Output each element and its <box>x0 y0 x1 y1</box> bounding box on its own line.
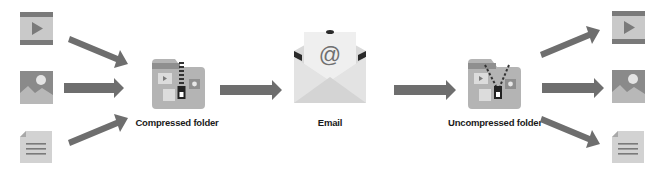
arrow-uncompressed-to-image <box>542 78 604 98</box>
document-file-icon <box>20 131 52 163</box>
video-file-icon <box>20 12 53 45</box>
email-envelope-icon: @ <box>294 27 366 103</box>
arrow-compressed-to-email <box>220 80 282 100</box>
image-file-icon <box>20 71 53 104</box>
svg-text:@: @ <box>319 42 341 67</box>
arrow-uncompressed-to-video <box>540 24 602 64</box>
image-file-icon <box>612 70 645 103</box>
arrow-document-to-compressed <box>68 112 130 152</box>
arrow-video-to-compressed <box>68 30 130 70</box>
compressed-folder-label: Compressed folder <box>132 117 222 128</box>
arrow-uncompressed-to-document <box>540 110 602 150</box>
document-file-icon <box>612 131 644 163</box>
zipped-folder-icon <box>149 59 205 109</box>
arrow-image-to-compressed <box>64 78 126 98</box>
unzipped-folder-icon <box>465 59 521 109</box>
arrow-email-to-uncompressed <box>394 80 456 100</box>
email-label: Email <box>305 117 355 128</box>
video-file-icon <box>612 11 645 44</box>
uncompressed-folder-label: Uncompressed folder <box>445 117 545 128</box>
